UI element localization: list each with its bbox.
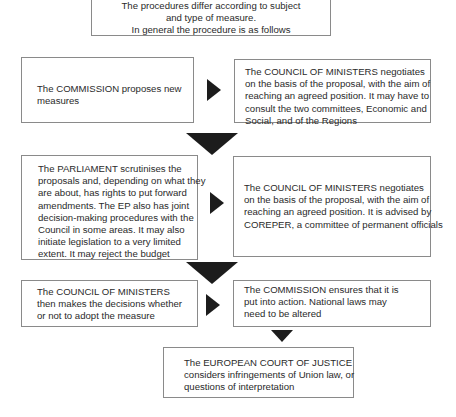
court-of-justice-box: The EUROPEAN COURT OF JUSTICE considers … — [163, 347, 354, 398]
step-text-line: or not to adopt the measure — [37, 310, 182, 322]
council-decides-box: The COUNCIL OF MINISTERS then makes the … — [21, 280, 198, 327]
commission-ensures-box: The COMMISSION ensures that it is put in… — [233, 280, 431, 327]
step-text-line: are about, has rights to put forward — [38, 187, 205, 199]
step-text-line: on the basis of the proposal, with the a… — [244, 194, 443, 206]
intro-line: The procedures differ according to subje… — [92, 0, 330, 12]
arrow-right-icon — [210, 192, 224, 214]
step-text-line: questions of interpretation — [184, 381, 354, 393]
step-text-line: consult the two committees, Economic and — [245, 103, 430, 115]
arrow-right-icon — [206, 294, 220, 316]
step-text-line: on the basis of the proposal, with the a… — [245, 78, 430, 90]
step-text-line: COREPER, a committee of permanent offici… — [244, 219, 443, 231]
step-text-line: decision-making procedures with the — [38, 212, 205, 224]
step-text-line: then makes the decisions whether — [37, 298, 182, 310]
step-text-line: measures — [37, 95, 182, 107]
arrow-down-icon — [271, 330, 293, 342]
step-text-line: considers infringements of Union law, or — [184, 369, 354, 381]
intro-box: The procedures differ according to subje… — [91, 0, 331, 36]
step-text-line: The COUNCIL OF MINISTERS negotiates — [245, 66, 430, 78]
step-text-line: The COMMISSION ensures that it is — [244, 284, 399, 296]
arrow-down-icon — [186, 133, 238, 155]
step-text-line: The COUNCIL OF MINISTERS — [37, 286, 182, 298]
arrow-right-icon — [207, 79, 221, 101]
step-text-line: Social, and of the Regions — [245, 115, 430, 127]
step-text-line: proposals and, depending on what they — [38, 175, 205, 187]
intro-line: and type of measure. — [92, 12, 330, 24]
step-text-line: The COMMISSION proposes new — [37, 83, 182, 95]
commission-proposes-box: The COMMISSION proposes new measures — [21, 57, 194, 123]
step-text-line: The COUNCIL OF MINISTERS negotiates — [244, 182, 443, 194]
step-text-line: initiate legislation to a very limited — [38, 236, 205, 248]
parliament-scrutinises-box: The PARLIAMENT scrutinises the proposals… — [21, 155, 198, 260]
council-negotiates-box-2: The COUNCIL OF MINISTERS negotiates on t… — [233, 156, 431, 257]
step-text-line: Council in some areas. It may also — [38, 224, 205, 236]
step-text-line: reaching an agreed position. It is advis… — [244, 206, 443, 218]
council-negotiates-box-1: The COUNCIL OF MINISTERS negotiates on t… — [234, 59, 431, 123]
step-text-line: The PARLIAMENT scrutinises the — [38, 163, 205, 175]
step-text-line: extent. It may reject the budget — [38, 248, 205, 260]
step-text-line: need to be altered — [244, 308, 399, 320]
step-text-line: put into action. National laws may — [244, 296, 399, 308]
step-text-line: reaching an agreed position. It may have… — [245, 90, 430, 102]
step-text-line: The EUROPEAN COURT OF JUSTICE — [184, 357, 354, 369]
step-text-line: amendments. The EP also has joint — [38, 200, 205, 212]
intro-line: In general the procedure is as follows — [92, 24, 330, 36]
